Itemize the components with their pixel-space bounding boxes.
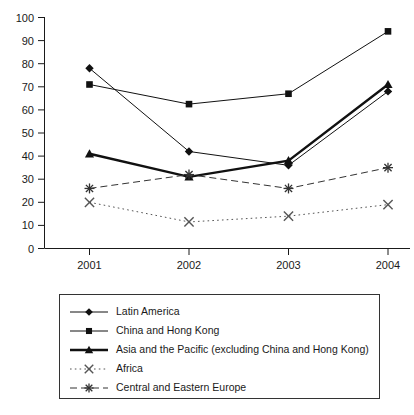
y-tick-label: 10 (22, 219, 34, 231)
asterisk-marker (184, 170, 194, 180)
line-chart-figure: 100 90 80 70 60 50 40 30 20 10 0 (0, 0, 414, 415)
y-tick-label: 50 (22, 127, 34, 139)
triangle-marker (383, 80, 392, 88)
data-series (86, 28, 391, 107)
legend-label: Central and Eastern Europe (116, 381, 246, 393)
legend-label: Africa (116, 362, 143, 374)
y-tick-label: 80 (22, 58, 34, 70)
y-axis-ticks: 100 90 80 70 60 50 40 30 20 10 0 (16, 12, 45, 255)
asterisk-marker (383, 163, 393, 173)
x-tick-label: 2001 (77, 259, 101, 271)
y-tick-label: 30 (22, 173, 34, 185)
y-tick-label: 90 (22, 35, 34, 47)
asterisk-marker (85, 183, 95, 193)
square-marker (385, 28, 392, 35)
asterisk-marker (284, 183, 294, 193)
y-tick-label: 20 (22, 196, 34, 208)
data-series (85, 80, 393, 181)
y-tick-label: 70 (22, 81, 34, 93)
square-marker (86, 328, 92, 334)
series-line (90, 31, 389, 104)
series-line (90, 68, 389, 165)
square-marker (186, 101, 193, 108)
triangle-marker (85, 149, 94, 157)
legend-label: Asia and the Pacific (excluding China an… (116, 343, 369, 355)
x-tick-label: 2002 (177, 259, 201, 271)
y-tick-label: 40 (22, 150, 34, 162)
y-tick-label: 100 (16, 12, 34, 24)
x-tick-label: 2003 (276, 259, 300, 271)
x-tick-label: 2004 (376, 259, 400, 271)
square-marker (285, 90, 292, 97)
series-line (90, 168, 389, 189)
legend-label: China and Hong Kong (116, 324, 219, 336)
legend-label: Latin America (116, 305, 180, 317)
chart-canvas: 100 90 80 70 60 50 40 30 20 10 0 (0, 0, 414, 415)
series-line (90, 84, 389, 176)
series-layer (85, 28, 394, 226)
cross-x-marker (184, 217, 193, 226)
x-axis-ticks: 2001 2002 2003 2004 (77, 249, 400, 272)
data-series (85, 163, 394, 194)
diamond-marker (384, 87, 392, 95)
y-tick-label: 0 (28, 243, 34, 255)
series-line (90, 202, 389, 222)
asterisk-marker (84, 383, 93, 392)
data-series (85, 198, 393, 227)
square-marker (86, 81, 93, 88)
cross-x-marker (85, 198, 94, 207)
y-tick-label: 60 (22, 104, 34, 116)
